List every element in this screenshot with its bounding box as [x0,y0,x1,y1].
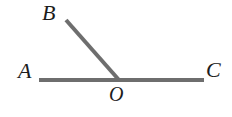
point-label-c: C [206,59,221,81]
point-label-a: A [18,60,31,82]
angle-diagram-canvas: A B C O [0,0,232,117]
point-label-o: O [109,84,123,104]
point-label-b: B [42,2,55,24]
ray-segment-ob [66,20,119,80]
